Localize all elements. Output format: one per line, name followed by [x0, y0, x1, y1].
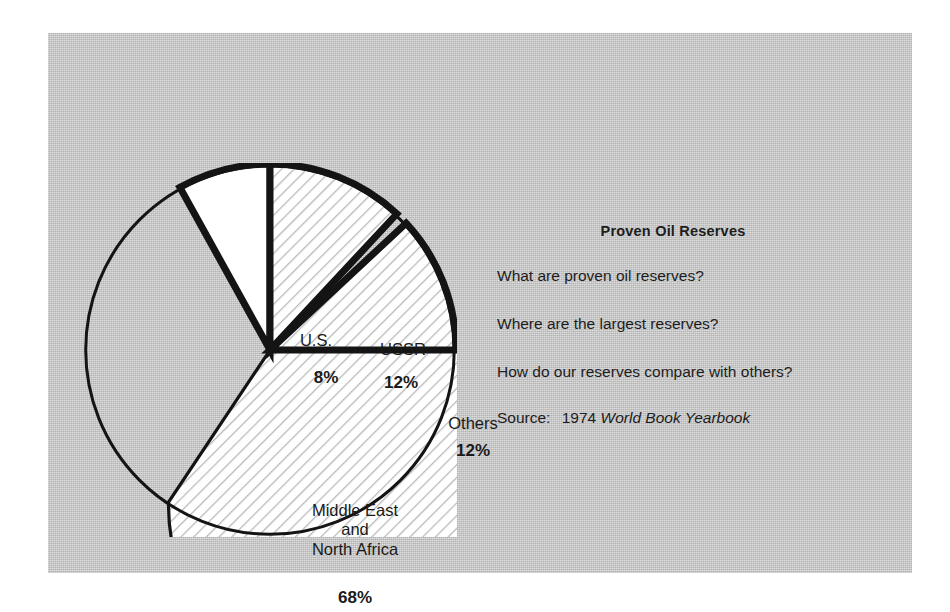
- question-3: How do our reserves compare with others?: [497, 361, 857, 383]
- pie-label-middle-east-value: 68%: [265, 588, 445, 608]
- pie-slice-us: [180, 164, 270, 350]
- pie-label-middle-east-line3: North Africa: [235, 540, 475, 559]
- pie-label-us-name: U.S.: [279, 331, 353, 350]
- pie-label-middle-east-line2: and: [235, 520, 475, 539]
- source-year: 1974: [562, 409, 596, 426]
- pie-label-middle-east-line1: Middle East: [235, 501, 475, 520]
- panel-title: Proven Oil Reserves: [497, 223, 857, 239]
- pie-label-middle-east-name: Middle East and North Africa: [235, 501, 475, 559]
- pie-chart: U.S. 8% USSR 12% Others 12% Middle East …: [83, 163, 457, 537]
- side-text-panel: Proven Oil Reserves What are proven oil …: [497, 223, 857, 427]
- pie-label-ussr-name: USSR: [363, 340, 443, 359]
- pie-label-us-value: 8%: [289, 368, 363, 388]
- question-1: What are proven oil reserves?: [497, 265, 857, 287]
- source-line: Source: 1974 World Book Yearbook: [497, 409, 857, 427]
- figure-panel: U.S. 8% USSR 12% Others 12% Middle East …: [48, 33, 912, 573]
- question-2: Where are the largest reserves?: [497, 313, 857, 335]
- screenshot-root: U.S. 8% USSR 12% Others 12% Middle East …: [0, 0, 950, 612]
- pie-label-ussr-value: 12%: [361, 373, 441, 393]
- pie-label-others-value: 12%: [431, 441, 515, 461]
- source-publication: World Book Yearbook: [601, 409, 751, 426]
- source-label: Source:: [497, 409, 550, 426]
